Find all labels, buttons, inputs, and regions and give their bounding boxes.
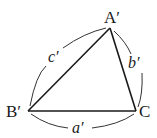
side-label-c: c′ [48, 48, 59, 65]
triangle-diagram: A′ B′ C a′ b′ c′ [0, 0, 157, 138]
side-label-b: b′ [128, 54, 140, 71]
side-label-a: a′ [72, 119, 84, 136]
vertex-label-a: A′ [104, 8, 120, 27]
vertex-label-c: C [139, 102, 150, 121]
side-ab [28, 28, 110, 111]
arc-a-left [31, 114, 68, 128]
vertex-label-b: B′ [6, 102, 21, 121]
arc-a-right [92, 114, 134, 128]
